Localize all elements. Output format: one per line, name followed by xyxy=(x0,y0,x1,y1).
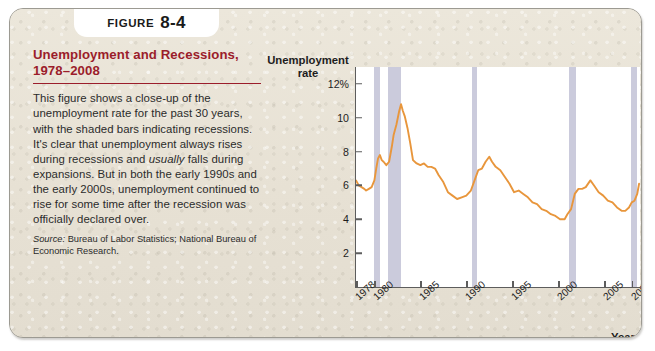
y-tick-mark xyxy=(356,83,362,85)
figure-tab-number: 8-4 xyxy=(160,13,185,33)
x-axis-title: Year xyxy=(611,331,635,338)
figure-card: FIGURE 8-4 Unemployment and Recessions, … xyxy=(9,8,642,338)
y-tick-label: 4 xyxy=(305,213,349,225)
x-tick-mark xyxy=(374,281,376,287)
figure-source: Source: Bureau of Labor Statistics; Nati… xyxy=(33,234,265,257)
y-tick-label: 12% xyxy=(305,78,349,90)
x-tick-mark xyxy=(356,281,358,287)
figure-text-column: Unemployment and Recessions, 1978–2008 T… xyxy=(33,47,265,257)
y-tick-label: 10 xyxy=(305,112,349,124)
y-tick-mark xyxy=(356,219,362,221)
figure-caption-body: This figure shows a close-up of the unem… xyxy=(33,91,265,227)
x-tick-mark xyxy=(604,281,606,287)
y-tick-label: 6 xyxy=(305,179,349,191)
y-tick-mark xyxy=(356,252,362,254)
figure-number-tab: FIGURE 8-4 xyxy=(74,8,219,37)
y-tick-mark xyxy=(356,185,362,187)
y-tick-label: 2 xyxy=(305,247,349,259)
y-tick-mark xyxy=(356,151,362,153)
plot-inner xyxy=(356,67,640,287)
title-divider xyxy=(33,83,261,84)
source-label: Source: xyxy=(33,234,65,244)
figure-tab-word: FIGURE xyxy=(107,17,154,29)
x-tick-mark xyxy=(466,281,468,287)
chart: Unemployment rate 12%108642 197819801985… xyxy=(265,49,640,317)
plot-area: 12%108642 197819801985199019952000200520… xyxy=(355,67,640,288)
source-value: Bureau of Labor Statistics; National Bur… xyxy=(33,234,256,255)
x-tick-mark xyxy=(512,281,514,287)
x-tick-mark xyxy=(420,281,422,287)
y-axis-title: Unemployment rate xyxy=(265,54,351,80)
figure-screenshot: FIGURE 8-4 Unemployment and Recessions, … xyxy=(0,0,655,351)
y-tick-mark xyxy=(356,117,362,119)
x-tick-mark xyxy=(632,281,634,287)
unemployment-line xyxy=(356,67,640,287)
y-axis-title-line1: Unemployment xyxy=(265,54,351,67)
figure-title: Unemployment and Recessions, 1978–2008 xyxy=(33,47,265,78)
x-tick-mark xyxy=(558,281,560,287)
y-tick-label: 8 xyxy=(305,146,349,158)
